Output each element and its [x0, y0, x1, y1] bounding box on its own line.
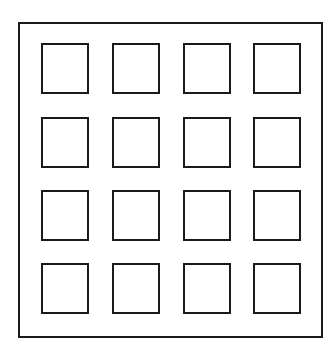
grid-square-r2-c4: [253, 117, 301, 168]
grid-square-r2-c3: [183, 117, 231, 168]
grid-square-r4-c3: [183, 263, 231, 314]
grid-square-r3-c1: [41, 190, 89, 241]
grid-square-r4-c1: [41, 263, 89, 314]
grid-square-r3-c4: [253, 190, 301, 241]
grid-square-r1-c1: [41, 43, 89, 94]
grid-square-r2-c1: [41, 117, 89, 168]
grid-square-r4-c2: [112, 263, 160, 314]
grid-square-r4-c4: [253, 263, 301, 314]
grid-square-r3-c2: [112, 190, 160, 241]
grid-square-r3-c3: [183, 190, 231, 241]
grid-square-r1-c4: [253, 43, 301, 94]
grid-square-r2-c2: [112, 117, 160, 168]
grid-square-r1-c3: [183, 43, 231, 94]
grid-square-r1-c2: [112, 43, 160, 94]
